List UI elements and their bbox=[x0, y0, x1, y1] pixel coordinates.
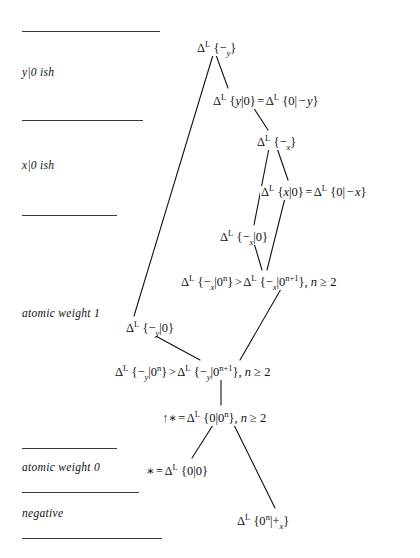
node-n-up-star[interactable]: ↑∗=ΔL {0|0n}, n ≥ 2 bbox=[161, 412, 267, 426]
edge-e-minusy0-to-ineqy bbox=[152, 334, 200, 360]
region-label-x0ish: x|0 ish bbox=[22, 159, 54, 171]
node-n-plus-x[interactable]: ΔL {0n|+x} bbox=[236, 515, 290, 529]
edge-e-x0-to-ineqx bbox=[267, 198, 285, 270]
region-label-y0ish: y|0 ish bbox=[22, 66, 54, 78]
edge-e-minusx-to-x0 bbox=[277, 148, 288, 180]
node-n-minus-y[interactable]: ΔL {−y} bbox=[196, 42, 237, 56]
node-n-x0[interactable]: ΔL {x|0}=ΔL {0|−x} bbox=[260, 186, 368, 200]
divider-rule-aw1-aw0 bbox=[22, 448, 117, 449]
node-n-minus-x-ineq[interactable]: ΔL {−x|0n}>ΔL {−x|0n+1}, n ≥ 2 bbox=[180, 276, 337, 290]
edge-e-ineqx-to-ineqy bbox=[240, 289, 281, 360]
region-label-atomic-weight-0: atomic weight 0 bbox=[22, 461, 100, 473]
region-label-atomic-weight-1: atomic weight 1 bbox=[22, 307, 100, 319]
node-n-minus-x[interactable]: ΔL {−x} bbox=[256, 136, 297, 150]
node-n-y0[interactable]: ΔL {y|0}=ΔL {0|−y} bbox=[212, 95, 320, 109]
node-n-minus-x-0[interactable]: ΔL {−x|0} bbox=[219, 231, 269, 245]
divider-rule-x-aw1 bbox=[22, 215, 117, 216]
region-label-negative: negative bbox=[22, 507, 63, 519]
node-n-minus-y-0[interactable]: ΔL {−y|0} bbox=[125, 322, 175, 336]
divider-rule-top bbox=[22, 31, 160, 32]
diagram-canvas: y|0 ishx|0 ishatomic weight 1atomic weig… bbox=[0, 0, 420, 558]
node-n-star[interactable]: ∗=ΔL {0|0} bbox=[145, 465, 209, 479]
edge-e-minusy-to-y0 bbox=[216, 55, 228, 88]
divider-rule-bottom bbox=[22, 538, 162, 539]
edge-e-y0-to-minusx bbox=[253, 107, 268, 130]
node-n-minus-y-ineq[interactable]: ΔL {−y|0n}>ΔL {−y|0n+1}, n ≥ 2 bbox=[114, 366, 271, 380]
edge-e-minusx0-to-ineqx bbox=[254, 243, 262, 270]
divider-rule-aw0-neg bbox=[22, 492, 139, 493]
divider-rule-y-x bbox=[22, 120, 143, 121]
edge-e-upstar-to-plusx bbox=[234, 425, 275, 508]
edge-e-upstar-to-star bbox=[192, 425, 213, 458]
